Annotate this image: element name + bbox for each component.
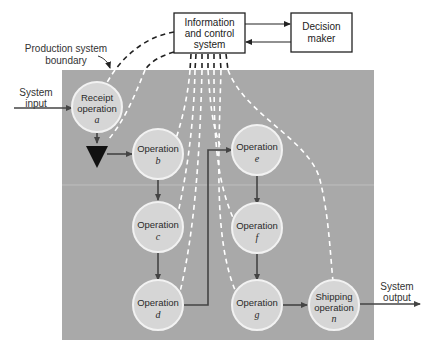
svg-text:Operation: Operation: [137, 143, 179, 154]
svg-text:a: a: [95, 114, 100, 125]
system-input-label-line1: System: [19, 87, 52, 98]
boundary-pointer-arrow: [98, 56, 110, 68]
svg-text:Operation: Operation: [236, 297, 278, 308]
system-output-label-line2: output: [383, 292, 411, 303]
svg-text:b: b: [156, 155, 161, 166]
svg-text:Operation: Operation: [137, 219, 179, 230]
decision-maker-box: Decision maker: [291, 13, 352, 52]
node-operation-e: Operation e: [232, 125, 282, 175]
svg-text:Operation: Operation: [236, 220, 278, 231]
svg-text:e: e: [255, 153, 260, 164]
decision-box-line2: maker: [308, 33, 336, 44]
system-output-label-line1: System: [380, 281, 413, 292]
node-operation-f: Operation f: [232, 203, 282, 253]
node-shipping-operation-n: Shipping operation n: [309, 280, 359, 330]
svg-text:Operation: Operation: [236, 141, 278, 152]
boundary-label-line1: Production system: [25, 43, 107, 54]
info-box-line1: Information: [184, 17, 234, 28]
info-box-line3: system: [194, 39, 226, 50]
svg-text:Operation: Operation: [137, 297, 179, 308]
svg-text:operation: operation: [77, 103, 117, 114]
info-box-line2: and control: [185, 28, 234, 39]
system-input-label-line2: input: [25, 98, 47, 109]
decision-box-line1: Decision: [302, 21, 340, 32]
svg-text:Shipping: Shipping: [316, 291, 353, 302]
svg-text:c: c: [156, 231, 161, 242]
svg-text:operation: operation: [314, 302, 354, 313]
node-receipt-operation-a: Receipt operation a: [72, 82, 122, 132]
svg-text:g: g: [255, 309, 260, 320]
node-operation-d: Operation d: [133, 280, 183, 330]
svg-text:Receipt: Receipt: [81, 92, 114, 103]
production-system-diagram: Information and control system Decision …: [0, 0, 432, 352]
svg-text:n: n: [332, 313, 337, 324]
information-control-system-box: Information and control system: [174, 13, 245, 53]
node-operation-b: Operation b: [133, 129, 183, 179]
node-operation-g: Operation g: [232, 280, 282, 330]
boundary-label-line2: boundary: [45, 55, 87, 66]
node-operation-c: Operation c: [133, 202, 183, 252]
